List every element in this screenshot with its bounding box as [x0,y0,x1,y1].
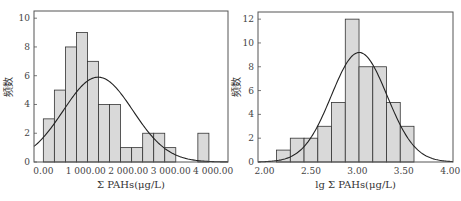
histogram-bar [373,67,387,162]
y-tick-label: 6 [24,71,30,81]
y-axis-title: 频数 [230,77,242,97]
y-tick-label: 0 [248,157,254,167]
histogram-figure: 02468100.001 000.002 000.003 000.004 000… [0,0,461,201]
y-tick-label: 2 [24,128,30,138]
y-tick-label: 8 [248,62,254,72]
y-tick-label: 2 [248,133,254,143]
histogram-bar [87,61,98,162]
histogram-sum-pahs: 02468100.001 000.002 000.003 000.004 000… [2,11,233,190]
x-tick-label: 1 000.00 [66,166,106,176]
histogram-bar [345,19,359,162]
histogram-bar [318,126,332,162]
histogram-bar [110,104,121,162]
histogram-bar [290,138,304,162]
histogram-bar [332,102,346,162]
y-tick-label: 4 [24,99,30,109]
x-axis-title: Σ PAHs(μg/L) [97,179,165,190]
y-tick-label: 12 [243,14,254,24]
histogram-bar [143,133,154,162]
histogram-bar [54,90,65,162]
x-axis-title: lg Σ PAHs(μg/L) [315,179,396,190]
x-tick-label: 4.00 [440,166,460,176]
histogram-bar [121,148,132,162]
x-tick-label: 2.00 [254,166,274,176]
y-tick-label: 4 [248,109,254,119]
y-tick-label: 0 [24,157,30,167]
x-tick-label: 0.00 [33,166,53,176]
y-axis-title: 频数 [2,77,14,97]
histogram-bar [132,148,143,162]
y-tick-label: 10 [243,38,255,48]
y-tick-label: 10 [19,13,31,23]
x-tick-label: 3 000.00 [151,166,191,176]
histogram-bar [76,33,87,162]
y-tick-label: 6 [248,86,254,96]
x-tick-label: 4 000.00 [193,166,233,176]
histogram-bar [99,104,110,162]
y-tick-label: 8 [24,42,30,52]
x-tick-label: 2 000.00 [108,166,148,176]
x-tick-label: 2.50 [301,166,321,176]
histogram-bar [359,67,373,162]
histogram-bar [198,133,209,162]
histogram-lg-sum-pahs: 0246810122.002.503.003.504.00lg Σ PAHs(μ… [230,12,461,190]
x-tick-label: 3.50 [394,166,414,176]
histogram-bar [304,138,318,162]
x-tick-label: 3.00 [347,166,367,176]
